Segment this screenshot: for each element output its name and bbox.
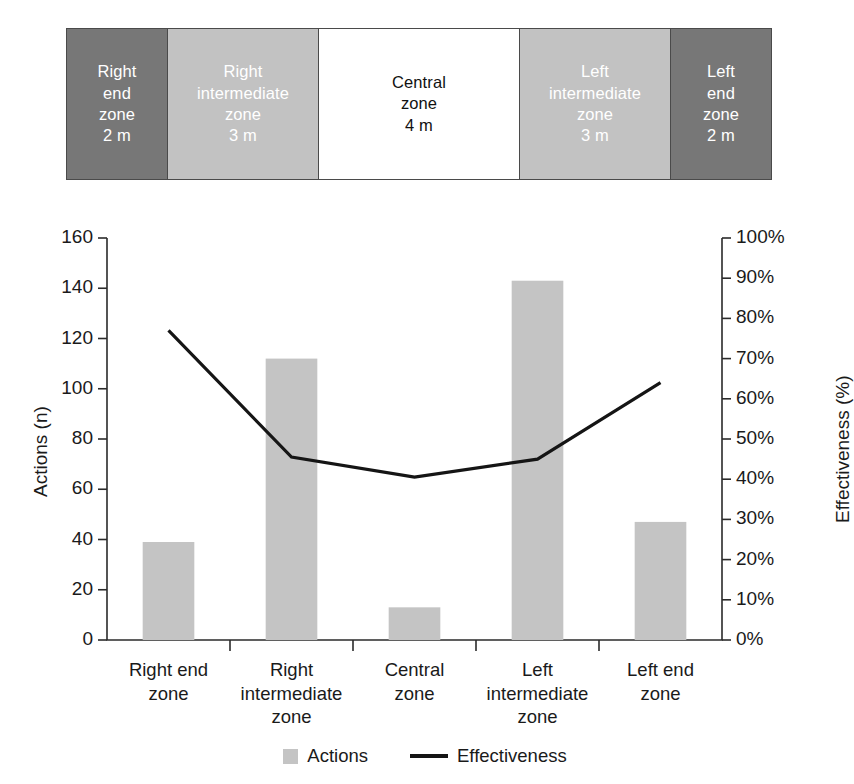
- y-tick-label-left-40: 40: [72, 528, 93, 550]
- bar-0: [143, 542, 195, 640]
- y-tick-label-left-120: 120: [61, 327, 93, 349]
- legend-label-actions: Actions: [307, 745, 368, 767]
- bar-1: [266, 359, 318, 640]
- y-tick-label-left-160: 160: [61, 226, 93, 248]
- y-tick-label-left-20: 20: [72, 578, 93, 600]
- x-category-label-0: Right endzone: [107, 658, 230, 705]
- x-category-label-2: Centralzone: [353, 658, 476, 705]
- y-tick-label-left-140: 140: [61, 276, 93, 298]
- y-tick-label-right-60: 60%: [736, 387, 774, 409]
- y-tick-label-right-80: 80%: [736, 306, 774, 328]
- y-tick-label-right-70: 70%: [736, 347, 774, 369]
- y-tick-label-right-100: 100%: [736, 226, 785, 248]
- legend-item-effectiveness: Effectiveness: [410, 745, 567, 767]
- y-tick-label-left-0: 0: [82, 628, 93, 650]
- x-category-label-1: Rightintermediatezone: [230, 658, 353, 729]
- bar-4: [635, 522, 687, 640]
- x-category-label-4: Left endzone: [599, 658, 722, 705]
- legend-swatch-line-icon: [410, 754, 448, 757]
- y-axis-title-right: Effectiveness (%): [832, 376, 854, 523]
- bar-2: [389, 607, 441, 640]
- y-tick-label-right-90: 90%: [736, 266, 774, 288]
- y-tick-label-right-50: 50%: [736, 427, 774, 449]
- legend-label-effectiveness: Effectiveness: [457, 745, 567, 767]
- y-tick-label-left-80: 80: [72, 427, 93, 449]
- y-tick-label-left-60: 60: [72, 477, 93, 499]
- y-tick-label-left-100: 100: [61, 377, 93, 399]
- effectiveness-line: [169, 330, 661, 477]
- y-tick-label-right-0: 0%: [736, 628, 763, 650]
- legend-item-actions: Actions: [283, 745, 368, 767]
- legend-swatch-bar-icon: [283, 749, 298, 764]
- x-category-label-3: Leftintermediatezone: [476, 658, 599, 729]
- y-tick-label-right-40: 40%: [736, 467, 774, 489]
- y-tick-label-right-10: 10%: [736, 588, 774, 610]
- axis-frame: [107, 238, 722, 640]
- y-axis-title-left: Actions (n): [30, 406, 52, 497]
- chart-legend: Actions Effectiveness: [0, 745, 850, 767]
- y-tick-label-right-20: 20%: [736, 548, 774, 570]
- y-tick-label-right-30: 30%: [736, 507, 774, 529]
